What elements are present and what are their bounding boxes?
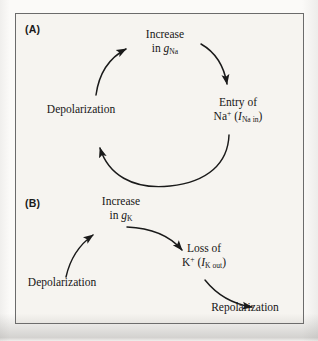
node-repolarization-line1: Repolarization bbox=[193, 301, 297, 315]
node-depolarization-b-line1: Depolarization bbox=[14, 276, 110, 290]
node-depolarization-a: Depolarization bbox=[33, 103, 129, 117]
node-increase-gna-prefix: in bbox=[152, 42, 164, 54]
node-increase-gk-prefix: in bbox=[109, 209, 121, 221]
node-increase-gna-line1: Increase bbox=[119, 28, 211, 42]
figure-canvas: (A) Increase in gNa Entry of Na+ (INa in… bbox=[0, 0, 318, 341]
node-depolarization-b: Depolarization bbox=[14, 276, 110, 290]
node-entry-of-na-charge: + bbox=[227, 109, 231, 118]
figure-frame: (A) Increase in gNa Entry of Na+ (INa in… bbox=[15, 13, 304, 324]
node-loss-of-k-current-subscript: K out bbox=[205, 261, 222, 270]
node-entry-of-na-line1: Entry of bbox=[184, 96, 292, 110]
node-increase-gna-line2: in gNa bbox=[119, 42, 211, 56]
node-loss-of-k-ion: K bbox=[182, 256, 190, 268]
node-loss-of-k: Loss of K+ (IK out) bbox=[150, 242, 258, 269]
node-increase-gna-subscript: Na bbox=[169, 47, 178, 56]
node-entry-of-na-current-subscript: Na in bbox=[242, 115, 259, 124]
node-entry-of-na-paren-close: ) bbox=[259, 110, 263, 122]
panel-label-a: (A) bbox=[25, 23, 40, 35]
node-entry-of-na: Entry of Na+ (INa in) bbox=[184, 96, 292, 123]
panel-label-b: (B) bbox=[25, 197, 40, 209]
node-loss-of-k-line1: Loss of bbox=[150, 242, 258, 256]
node-increase-gk-line1: Increase bbox=[75, 195, 167, 209]
node-entry-of-na-line2: Na+ (INa in) bbox=[184, 110, 292, 124]
node-depolarization-a-line1: Depolarization bbox=[33, 103, 129, 117]
node-increase-gna: Increase in gNa bbox=[119, 28, 211, 55]
node-repolarization: Repolarization bbox=[193, 301, 297, 315]
node-loss-of-k-line2: K+ (IK out) bbox=[150, 256, 258, 270]
node-loss-of-k-charge: + bbox=[190, 255, 194, 264]
node-entry-of-na-ion: Na bbox=[214, 110, 227, 122]
node-loss-of-k-paren-close: ) bbox=[222, 256, 226, 268]
node-increase-gk: Increase in gK bbox=[75, 195, 167, 222]
node-increase-gk-subscript: K bbox=[127, 214, 132, 223]
node-increase-gk-line2: in gK bbox=[75, 209, 167, 223]
